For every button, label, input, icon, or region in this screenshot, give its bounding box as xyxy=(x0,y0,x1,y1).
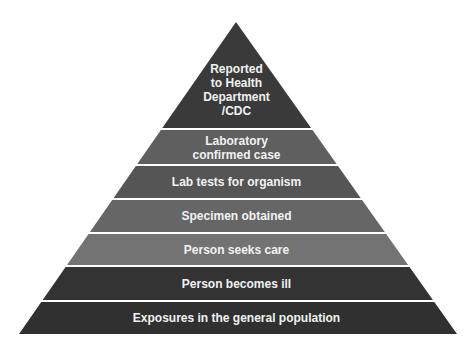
level-seeks-care-label: Person seeks care xyxy=(0,243,473,257)
label-line: Reported xyxy=(0,62,473,76)
label-line: confirmed case xyxy=(0,148,473,162)
label-line: Department xyxy=(0,90,473,104)
level-reported-label: Reported to Health Department /CDC xyxy=(0,62,473,118)
level-lab-tests-label: Lab tests for organism xyxy=(0,175,473,189)
level-specimen-label: Specimen obtained xyxy=(0,209,473,223)
label-line: /CDC xyxy=(0,104,473,118)
label-line: to Health xyxy=(0,76,473,90)
level-exposures-label: Exposures in the general population xyxy=(0,311,473,325)
level-lab-confirmed-label: Laboratory confirmed case xyxy=(0,134,473,162)
level-becomes-ill-label: Person becomes ill xyxy=(0,277,473,291)
label-line: Laboratory xyxy=(0,134,473,148)
